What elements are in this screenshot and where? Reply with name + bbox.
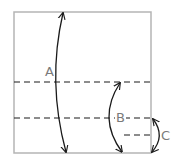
- label-c: C: [160, 129, 171, 142]
- origami-diagram: [0, 0, 177, 167]
- label-a: A: [44, 65, 55, 78]
- arrow-c-icon: [152, 119, 159, 152]
- label-b: B: [115, 111, 126, 124]
